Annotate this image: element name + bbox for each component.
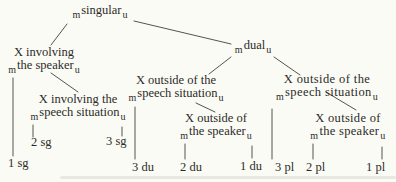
leaf-1sg: 1 sg (8, 157, 29, 170)
edge-dual-to-out-speech-mid (209, 57, 231, 74)
edge-inv-speaker-to-inv-speech (51, 73, 78, 92)
leaf-3sg: 3 sg (106, 135, 127, 148)
leaf-3pl: 3 pl (275, 161, 294, 174)
edge-singular-to-inv-speaker (51, 24, 67, 45)
node-label-line2: mthe speakeru (175, 125, 257, 138)
leaf-2pl: 2 pl (306, 161, 325, 174)
leaf-3du: 3 du (132, 161, 154, 174)
node-label-line2: mthe speakeru (306, 125, 390, 138)
node-involving-the-speaker: X involving mthe speakeru (0, 46, 88, 72)
node-outside-speaker-plural: X outside of mthe speakeru (306, 112, 390, 138)
node-label-line2: mspeech situationu (126, 87, 226, 100)
leaf-2du: 2 du (180, 161, 202, 174)
node-outside-speech-situation-dual: X outside of the mspeech situationu (126, 74, 226, 100)
scan-artifact-line (60, 176, 396, 179)
node-label-line2: mspeech situationu (26, 106, 130, 119)
node-outside-speech-situation-plural: X outside of the mspeech situationu (266, 73, 388, 99)
leaf-2sg: 2 sg (31, 136, 52, 149)
node-singular: msingularu (60, 4, 140, 17)
node-label-line2: mthe speakeru (0, 59, 88, 72)
node-outside-speaker-dual: X outside of mthe speakeru (175, 112, 257, 138)
node-label-line2: mspeech situationu (266, 86, 388, 99)
node-involving-the-speech-situation: X involving the mspeech situationu (26, 93, 130, 119)
leaf-1du: 1 du (240, 160, 262, 173)
node-singular-label: msingularu (60, 4, 140, 17)
node-dual-label: mdualu (228, 39, 278, 52)
node-dual: mdualu (228, 39, 278, 52)
edge-singular-to-dual (134, 21, 231, 44)
leaf-1pl: 1 pl (366, 161, 385, 174)
tree-diagram: msingularu mdualu X involving mthe speak… (0, 0, 396, 182)
